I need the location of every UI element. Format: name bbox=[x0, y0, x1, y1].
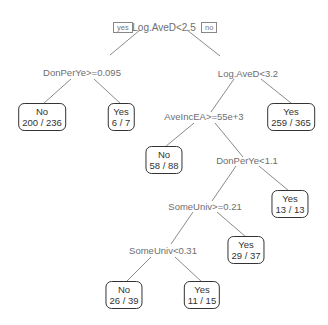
yes-edge-label: yes bbox=[113, 22, 133, 33]
leaf-class: Yes bbox=[112, 106, 131, 117]
no-edge-label: no bbox=[201, 22, 217, 33]
split-node-root: Log.AveD<2.5 bbox=[132, 22, 195, 33]
leaf-class: Yes bbox=[231, 239, 260, 250]
leaf-node: Yes 13 / 13 bbox=[271, 190, 308, 218]
leaf-class: No bbox=[109, 284, 138, 295]
leaf-class: No bbox=[22, 106, 62, 117]
split-node-logaved-32: Log.AveD<3.2 bbox=[218, 68, 278, 79]
leaf-count: 259 / 365 bbox=[271, 117, 311, 128]
leaf-count: 58 / 88 bbox=[149, 160, 178, 171]
leaf-count: 200 / 236 bbox=[22, 117, 62, 128]
leaf-class: Yes bbox=[188, 284, 216, 295]
split-node-someuniv-021: SomeUniv>=0.21 bbox=[168, 201, 241, 212]
leaf-count: 11 / 15 bbox=[188, 295, 216, 306]
leaf-count: 13 / 13 bbox=[275, 204, 304, 215]
leaf-node: Yes 259 / 365 bbox=[267, 103, 315, 131]
leaf-count: 29 / 37 bbox=[231, 250, 260, 261]
leaf-class: Yes bbox=[275, 193, 304, 204]
leaf-node: No 200 / 236 bbox=[18, 103, 66, 131]
leaf-class: Yes bbox=[271, 106, 311, 117]
leaf-node: Yes 6 / 7 bbox=[108, 103, 135, 131]
split-node-aveincea: AveIncEA>=55e+3 bbox=[164, 111, 243, 122]
split-node-someuniv-031: SomeUniv<0.31 bbox=[129, 245, 197, 256]
leaf-node: Yes 11 / 15 bbox=[184, 281, 220, 309]
leaf-count: 26 / 39 bbox=[109, 295, 138, 306]
leaf-node: Yes 29 / 37 bbox=[227, 236, 264, 264]
split-node-donperye-11: DonPerYe<1.1 bbox=[216, 155, 278, 166]
leaf-node: No 26 / 39 bbox=[105, 281, 142, 309]
leaf-count: 6 / 7 bbox=[112, 117, 131, 128]
leaf-node: No 58 / 88 bbox=[145, 146, 182, 174]
split-node-donperye-0095: DonPerYe>=0.095 bbox=[43, 67, 121, 78]
leaf-class: No bbox=[149, 149, 178, 160]
